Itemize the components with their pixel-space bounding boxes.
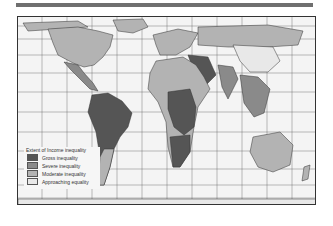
legend-label: Gross inequality	[42, 155, 78, 161]
legend: Extent of Income inequality Gross inequa…	[24, 147, 100, 189]
world-map: Extent of Income inequality Gross inequa…	[17, 16, 316, 205]
legend-swatch	[27, 178, 38, 185]
legend-label: Approaching equality	[42, 179, 89, 185]
top-rule	[16, 3, 313, 7]
legend-item-severe: Severe inequality	[27, 162, 80, 169]
legend-swatch	[27, 170, 38, 177]
legend-title: Extent of Income inequality	[26, 147, 86, 153]
legend-item-moderate: Moderate inequality	[27, 170, 86, 177]
legend-item-approaching: Approaching equality	[27, 178, 89, 185]
legend-swatch	[27, 154, 38, 161]
legend-label: Moderate inequality	[42, 171, 86, 177]
legend-swatch	[27, 162, 38, 169]
legend-item-gross: Gross inequality	[27, 154, 78, 161]
legend-label: Severe inequality	[42, 163, 80, 169]
